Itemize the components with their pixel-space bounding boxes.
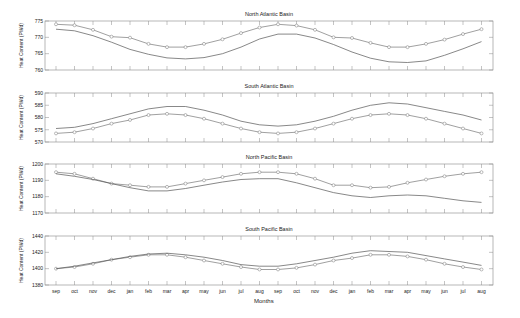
data-marker <box>55 23 58 26</box>
data-marker <box>314 127 317 130</box>
data-marker <box>332 184 335 187</box>
y-tick-label: 1420 <box>32 249 43 255</box>
x-tick-label: dec <box>329 288 338 294</box>
subplot-south-atlantic-basin: South Atlantic Basin570575580585590Heat … <box>18 83 493 145</box>
data-marker <box>462 172 465 175</box>
data-marker <box>295 266 298 269</box>
data-marker <box>388 46 391 49</box>
y-tick-label: 570 <box>35 139 44 145</box>
series-line <box>56 103 482 129</box>
y-tick-label: 580 <box>35 114 44 120</box>
data-marker <box>351 184 354 187</box>
data-marker <box>314 177 317 180</box>
data-marker <box>277 23 280 26</box>
x-tick-label: aug <box>255 288 264 294</box>
y-tick-label: 760 <box>35 67 44 73</box>
data-marker <box>129 118 132 121</box>
data-marker <box>443 122 446 125</box>
data-marker <box>480 171 483 174</box>
data-marker <box>166 185 169 188</box>
x-axis-label: Months <box>254 298 274 304</box>
data-marker <box>443 38 446 41</box>
data-marker <box>258 131 261 134</box>
data-marker <box>240 266 243 269</box>
data-marker <box>258 26 261 29</box>
x-tick-label: apr <box>182 288 190 294</box>
data-marker <box>110 122 113 125</box>
data-marker <box>147 42 150 45</box>
subplot-title: North Atlantic Basin <box>245 11 293 17</box>
data-marker <box>314 28 317 31</box>
data-marker <box>258 171 261 174</box>
subplot-south-pacific-basin: South Pacific Basin1380140014201440Heat … <box>18 226 493 294</box>
data-marker <box>129 184 132 187</box>
subplot-title: North Pacific Basin <box>246 154 292 160</box>
y-tick-label: 590 <box>35 90 44 96</box>
x-tick-label: sep <box>274 288 282 294</box>
data-marker <box>110 35 113 38</box>
y-axis-label: Heat Content (PWd) <box>18 238 24 283</box>
y-tick-label: 1400 <box>32 265 43 271</box>
data-marker <box>406 255 409 258</box>
x-tick-label: jun <box>218 288 226 294</box>
x-tick-label: mar <box>163 288 172 294</box>
x-tick-label: may <box>421 288 431 294</box>
data-marker <box>369 186 372 189</box>
x-tick-label: oct <box>293 288 300 294</box>
y-tick-label: 1200 <box>32 161 43 167</box>
data-marker <box>425 42 428 45</box>
data-marker <box>332 259 335 262</box>
y-tick-label: 770 <box>35 34 44 40</box>
subplot-north-atlantic-basin: North Atlantic Basin760765770775Heat Con… <box>18 11 493 73</box>
x-tick-label: apr <box>404 288 412 294</box>
figure: North Atlantic Basin760765770775Heat Con… <box>0 0 520 318</box>
data-marker <box>92 28 95 31</box>
y-axis-label: Heat Content (PWd) <box>18 166 24 211</box>
data-marker <box>388 185 391 188</box>
data-marker <box>203 42 206 45</box>
data-marker <box>462 266 465 269</box>
data-marker <box>221 122 224 125</box>
data-marker <box>425 178 428 181</box>
x-tick-label: jan <box>126 288 134 294</box>
data-marker <box>369 253 372 256</box>
data-marker <box>277 132 280 135</box>
data-marker <box>129 36 132 39</box>
data-marker <box>184 46 187 49</box>
data-marker <box>203 259 206 262</box>
x-tick-label: oct <box>71 288 78 294</box>
subplot-title: South Atlantic Basin <box>245 83 294 89</box>
data-marker <box>166 46 169 49</box>
data-marker <box>480 28 483 31</box>
data-marker <box>203 117 206 120</box>
x-tick-label: aug <box>477 288 486 294</box>
data-marker <box>73 172 76 175</box>
x-tick-label: feb <box>367 288 374 294</box>
data-marker <box>425 117 428 120</box>
data-marker <box>332 36 335 39</box>
data-marker <box>240 32 243 35</box>
y-tick-label: 1380 <box>32 282 43 288</box>
y-axis-label: Heat Content (PWd) <box>18 23 24 68</box>
data-marker <box>388 253 391 256</box>
data-marker <box>184 114 187 117</box>
data-marker <box>295 172 298 175</box>
y-tick-label: 1170 <box>32 210 43 216</box>
subplot-title: South Pacific Basin <box>245 226 292 232</box>
x-tick-label: feb <box>145 288 152 294</box>
x-tick-label: sep <box>52 288 60 294</box>
data-marker <box>369 114 372 117</box>
y-axis-label: Heat Content (PWd) <box>18 95 24 140</box>
data-marker <box>425 258 428 261</box>
y-tick-label: 1440 <box>32 233 43 239</box>
data-marker <box>166 253 169 256</box>
series-line <box>56 29 482 62</box>
x-tick-label: jan <box>348 288 356 294</box>
data-marker <box>480 132 483 135</box>
data-marker <box>277 171 280 174</box>
series-line <box>56 255 482 270</box>
data-marker <box>258 268 261 271</box>
data-marker <box>443 175 446 178</box>
data-marker <box>184 182 187 185</box>
data-marker <box>314 263 317 266</box>
